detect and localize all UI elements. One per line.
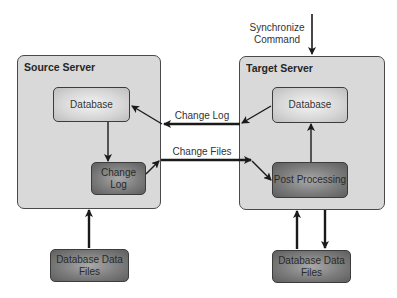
change-files-arrow [146,160,271,180]
change-log-arrow [132,106,271,124]
arrows-layer [0,0,397,298]
